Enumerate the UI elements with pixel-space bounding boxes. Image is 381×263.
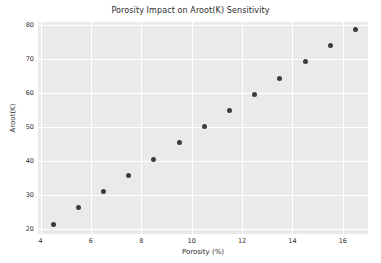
- x-tick-label: 16: [339, 237, 347, 245]
- scatter-point: [303, 59, 308, 64]
- scatter-point: [202, 124, 207, 129]
- x-tick-label: 4: [38, 237, 42, 245]
- x-tick-label: 8: [139, 237, 143, 245]
- x-tick-label: 14: [288, 237, 296, 245]
- x-tick-label: 10: [188, 237, 196, 245]
- scatter-point: [227, 108, 232, 113]
- y-tick-label: 70: [22, 55, 34, 63]
- y-tick-label: 80: [22, 21, 34, 29]
- scatter-point: [76, 205, 81, 210]
- gridline-horizontal: [38, 59, 368, 60]
- plot-area: [38, 22, 368, 234]
- scatter-point: [101, 189, 106, 194]
- scatter-point: [126, 173, 131, 178]
- chart-title: Porosity Impact on Aroot(K) Sensitivity: [0, 6, 381, 15]
- scatter-point: [177, 140, 182, 145]
- y-tick-label: 50: [22, 123, 34, 131]
- scatter-point: [353, 27, 358, 32]
- gridline-horizontal: [38, 25, 368, 26]
- chart-figure: Porosity Impact on Aroot(K) Sensitivity …: [0, 0, 381, 263]
- scatter-point: [252, 92, 257, 97]
- gridline-horizontal: [38, 195, 368, 196]
- y-tick-label: 40: [22, 157, 34, 165]
- x-tick-label: 12: [238, 237, 246, 245]
- gridline-horizontal: [38, 161, 368, 162]
- scatter-point: [328, 43, 333, 48]
- gridline-horizontal: [38, 93, 368, 94]
- x-axis-label: Porosity (%): [38, 248, 368, 256]
- y-axis-label: Aroot(K): [9, 88, 17, 148]
- scatter-point: [51, 222, 56, 227]
- x-tick-label: 6: [89, 237, 93, 245]
- scatter-point: [277, 76, 282, 81]
- y-tick-label: 60: [22, 89, 34, 97]
- y-tick-label: 30: [22, 191, 34, 199]
- gridline-horizontal: [38, 229, 368, 230]
- y-tick-label: 20: [22, 225, 34, 233]
